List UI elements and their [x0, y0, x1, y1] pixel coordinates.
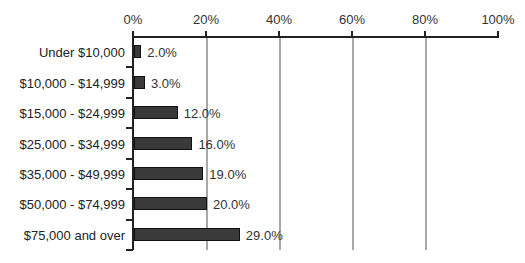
y-tick — [126, 97, 133, 99]
x-tick — [351, 31, 353, 37]
y-tick — [126, 219, 133, 221]
y-tick — [126, 127, 133, 129]
bar — [134, 167, 203, 180]
x-tick — [278, 31, 280, 37]
y-tick — [126, 158, 133, 160]
value-label: 29.0% — [246, 227, 283, 242]
bar — [134, 197, 207, 210]
x-tick-label: 80% — [412, 12, 438, 27]
bar — [134, 76, 145, 89]
value-label: 16.0% — [198, 136, 235, 151]
value-label: 20.0% — [213, 197, 250, 212]
y-tick — [126, 188, 133, 190]
bar — [134, 106, 178, 119]
x-tick — [132, 31, 134, 37]
x-tick — [497, 31, 499, 37]
category-label: $15,000 - $24,999 — [19, 106, 125, 121]
bar — [134, 228, 240, 241]
category-label: $75,000 and over — [24, 227, 125, 242]
x-tick-label: 40% — [266, 12, 292, 27]
x-tick — [205, 31, 207, 37]
x-tick-label: 100% — [481, 12, 514, 27]
x-tick — [424, 31, 426, 37]
x-axis — [133, 36, 499, 38]
category-label: $35,000 - $49,999 — [19, 166, 125, 181]
gridline — [352, 37, 354, 250]
y-tick — [126, 66, 133, 68]
gridline — [279, 37, 281, 250]
category-label: $10,000 - $14,999 — [19, 75, 125, 90]
value-label: 2.0% — [147, 45, 177, 60]
category-label: Under $10,000 — [39, 45, 125, 60]
value-label: 19.0% — [209, 166, 246, 181]
category-label: $50,000 - $74,999 — [19, 197, 125, 212]
bar — [134, 137, 192, 150]
gridline — [425, 37, 427, 250]
value-label: 3.0% — [151, 75, 181, 90]
x-tick-label: 0% — [124, 12, 143, 27]
category-label: $25,000 - $34,999 — [19, 136, 125, 151]
x-tick-label: 60% — [339, 12, 365, 27]
value-label: 12.0% — [184, 106, 221, 121]
x-tick-label: 20% — [193, 12, 219, 27]
y-tick — [126, 249, 133, 251]
income-distribution-bar-chart: 0%20%40%60%80%100% Under $10,0002.0%$10,… — [0, 0, 525, 263]
bar — [134, 45, 141, 58]
